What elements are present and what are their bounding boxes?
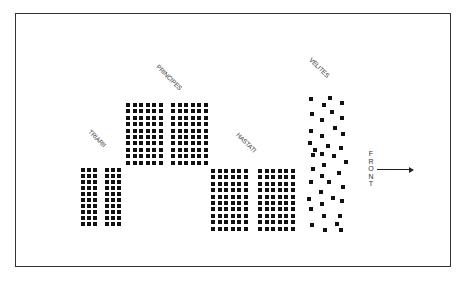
soldier-marker bbox=[152, 129, 156, 133]
skirmisher-marker bbox=[328, 96, 332, 100]
soldier-marker bbox=[211, 207, 215, 211]
soldier-marker bbox=[244, 214, 248, 218]
soldier-marker bbox=[117, 180, 121, 184]
soldier-marker bbox=[126, 161, 130, 165]
soldier-marker bbox=[152, 148, 156, 152]
soldier-marker bbox=[133, 135, 137, 139]
soldier-marker bbox=[159, 161, 163, 165]
soldier-marker bbox=[284, 188, 288, 192]
soldier-marker bbox=[152, 161, 156, 165]
soldier-marker bbox=[244, 220, 248, 224]
soldier-marker bbox=[87, 198, 91, 202]
triarii-maniple-2 bbox=[105, 168, 121, 226]
soldier-marker bbox=[244, 207, 248, 211]
skirmisher-marker bbox=[310, 223, 314, 227]
soldier-marker bbox=[284, 175, 288, 179]
soldier-marker bbox=[93, 174, 97, 178]
soldier-marker bbox=[93, 204, 97, 208]
skirmisher-marker bbox=[340, 116, 344, 120]
soldier-marker bbox=[244, 227, 248, 231]
soldier-marker bbox=[197, 154, 201, 158]
soldier-marker bbox=[111, 216, 115, 220]
soldier-marker bbox=[237, 182, 241, 186]
soldier-marker bbox=[139, 103, 143, 107]
soldier-marker bbox=[197, 129, 201, 133]
soldier-marker bbox=[237, 207, 241, 211]
soldier-marker bbox=[231, 195, 235, 199]
soldier-marker bbox=[184, 148, 188, 152]
soldier-marker bbox=[284, 227, 288, 231]
soldier-marker bbox=[184, 116, 188, 120]
skirmisher-marker bbox=[330, 110, 334, 114]
soldier-marker bbox=[258, 188, 262, 192]
soldier-marker bbox=[278, 195, 282, 199]
soldier-marker bbox=[237, 214, 241, 218]
soldier-marker bbox=[139, 135, 143, 139]
soldier-marker bbox=[291, 214, 295, 218]
soldier-marker bbox=[291, 169, 295, 173]
soldier-marker bbox=[111, 204, 115, 208]
soldier-marker bbox=[81, 204, 85, 208]
soldier-marker bbox=[184, 122, 188, 126]
soldier-marker bbox=[204, 122, 208, 126]
principes-maniple-1 bbox=[126, 103, 163, 165]
skirmisher-marker bbox=[333, 126, 337, 130]
soldier-marker bbox=[231, 214, 235, 218]
skirmisher-marker bbox=[344, 160, 348, 164]
soldier-marker bbox=[231, 227, 235, 231]
soldier-marker bbox=[218, 182, 222, 186]
soldier-marker bbox=[93, 198, 97, 202]
soldier-marker bbox=[184, 129, 188, 133]
soldier-marker bbox=[191, 129, 195, 133]
soldier-marker bbox=[258, 195, 262, 199]
soldier-marker bbox=[284, 207, 288, 211]
soldier-marker bbox=[284, 220, 288, 224]
soldier-marker bbox=[105, 210, 109, 214]
soldier-marker bbox=[265, 220, 269, 224]
soldier-marker bbox=[218, 207, 222, 211]
soldier-marker bbox=[126, 116, 130, 120]
skirmisher-marker bbox=[309, 97, 313, 101]
soldier-marker bbox=[271, 220, 275, 224]
skirmisher-marker bbox=[339, 228, 343, 232]
soldier-marker bbox=[105, 216, 109, 220]
soldier-marker bbox=[105, 204, 109, 208]
soldier-marker bbox=[105, 198, 109, 202]
soldier-marker bbox=[284, 214, 288, 218]
skirmisher-marker bbox=[322, 163, 326, 167]
soldier-marker bbox=[224, 175, 228, 179]
soldier-marker bbox=[146, 103, 150, 107]
soldier-marker bbox=[218, 188, 222, 192]
soldier-marker bbox=[204, 109, 208, 113]
soldier-marker bbox=[291, 188, 295, 192]
soldier-marker bbox=[204, 129, 208, 133]
soldier-marker bbox=[284, 195, 288, 199]
soldier-marker bbox=[237, 169, 241, 173]
soldier-marker bbox=[237, 220, 241, 224]
soldier-marker bbox=[81, 222, 85, 226]
soldier-marker bbox=[126, 109, 130, 113]
soldier-marker bbox=[211, 201, 215, 205]
soldier-marker bbox=[197, 109, 201, 113]
skirmisher-marker bbox=[320, 134, 324, 138]
soldier-marker bbox=[171, 161, 175, 165]
soldier-marker bbox=[278, 207, 282, 211]
soldier-marker bbox=[211, 214, 215, 218]
soldier-marker bbox=[265, 175, 269, 179]
soldier-marker bbox=[271, 182, 275, 186]
soldier-marker bbox=[184, 103, 188, 107]
soldier-marker bbox=[152, 109, 156, 113]
soldier-marker bbox=[244, 175, 248, 179]
skirmisher-marker bbox=[340, 101, 344, 105]
soldier-marker bbox=[111, 198, 115, 202]
soldier-marker bbox=[93, 210, 97, 214]
soldier-marker bbox=[87, 180, 91, 184]
skirmisher-marker bbox=[341, 132, 345, 136]
soldier-marker bbox=[171, 122, 175, 126]
soldier-marker bbox=[184, 109, 188, 113]
soldier-marker bbox=[87, 168, 91, 172]
soldier-marker bbox=[224, 214, 228, 218]
soldier-marker bbox=[81, 174, 85, 178]
soldier-marker bbox=[81, 168, 85, 172]
soldier-marker bbox=[178, 129, 182, 133]
